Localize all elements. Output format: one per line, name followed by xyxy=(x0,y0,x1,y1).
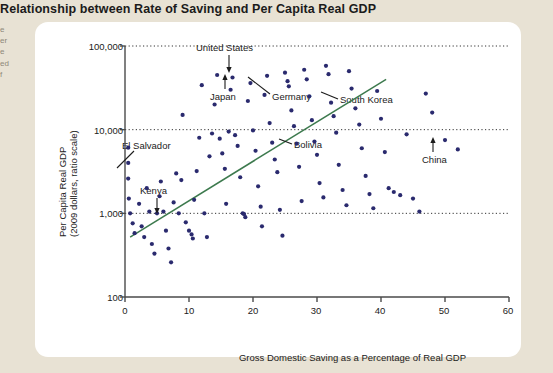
axes xyxy=(125,46,509,297)
scatter-plot xyxy=(35,22,521,357)
data-points xyxy=(126,64,460,265)
tick-marks xyxy=(120,46,509,302)
margin-note-text: eereedf xyxy=(0,24,14,114)
page-title: Relationship between Rate of Saving and … xyxy=(0,2,553,16)
gridlines xyxy=(125,46,509,213)
annotation-pointers xyxy=(117,55,436,214)
trend-line xyxy=(130,79,386,237)
figure-card: Per Capita Real GDP (2009 dollars, ratio… xyxy=(35,22,521,357)
